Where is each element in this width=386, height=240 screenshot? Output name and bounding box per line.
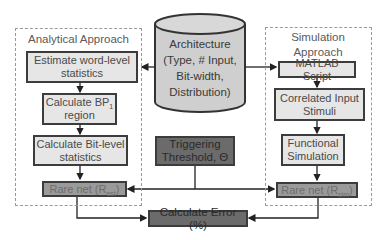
rare-net-sim-box: Rare net (Rsim) (276, 182, 358, 198)
architecture-text: Architecture (Type, # Input, Bit-width, … (155, 36, 245, 100)
calculate-error-box: Calculate Error (%) (148, 210, 248, 227)
matlab-script-box: MATLAB Script (278, 61, 356, 78)
functional-simulation-box: Functional Simulation (281, 134, 345, 166)
analytical-approach-title: Analytical Approach (15, 32, 142, 47)
correlated-input-stimuli-box: Correlated Input Stimuli (274, 88, 365, 121)
calculate-bit-level-label: Calculate Bit-level statistics (35, 138, 126, 164)
estimate-word-level-label: Estimate word-level statistics (28, 54, 136, 80)
correlated-input-stimuli-label: Correlated Input Stimuli (276, 92, 363, 118)
calculate-error-label: Calculate Error (%) (150, 206, 246, 232)
calculate-bit-level-box: Calculate Bit-level statistics (33, 135, 128, 166)
rare-net-est-label: Rare net (Rest) (50, 183, 120, 196)
matlab-script-label: MATLAB Script (280, 57, 354, 83)
functional-simulation-label: Functional Simulation (283, 137, 343, 163)
calculate-bp1-box: Calculate BP1 region (42, 93, 117, 125)
simulation-approach-title: Simulation Approach (282, 30, 354, 60)
triggering-threshold-label: Triggering Threshold, Θ (157, 138, 233, 164)
rare-net-sim-label: Rare net (Rsim) (281, 184, 352, 197)
calculate-bp1-label: Calculate BP1 region (44, 96, 115, 122)
triggering-threshold-box: Triggering Threshold, Θ (155, 136, 235, 166)
rare-net-est-box: Rare net (Rest) (42, 181, 127, 197)
estimate-word-level-box: Estimate word-level statistics (26, 51, 138, 83)
